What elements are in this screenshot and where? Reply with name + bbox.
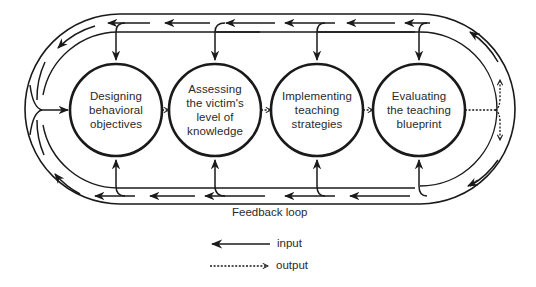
label-line: strategies xyxy=(275,117,359,131)
label-line: knowledge xyxy=(173,124,257,138)
label-line: the teaching xyxy=(377,103,461,117)
legend-output-label: output xyxy=(276,259,308,271)
label-line: blueprint xyxy=(377,117,461,131)
bottom-input-arrows xyxy=(116,160,427,196)
label-line: objectives xyxy=(74,117,158,131)
label-line: behavioral xyxy=(74,103,158,117)
node-label-assessing: Assessing the victim's level of knowledg… xyxy=(173,82,257,138)
label-line: Evaluating xyxy=(377,89,461,103)
label-line: teaching xyxy=(275,103,359,117)
left-input-merge xyxy=(30,85,68,135)
node-label-evaluating: Evaluating the teaching blueprint xyxy=(377,89,461,131)
feedback-loop-diagram xyxy=(0,0,536,287)
right-feedback-track xyxy=(468,32,498,186)
legend-input-label: input xyxy=(277,237,302,249)
label-line: the victim's xyxy=(173,96,257,110)
label-line: level of xyxy=(173,110,257,124)
label-line: Implementing xyxy=(275,89,359,103)
top-input-arrows xyxy=(116,23,427,60)
node-label-designing: Designing behavioral objectives xyxy=(74,89,158,131)
label-line: Designing xyxy=(74,89,158,103)
node-label-implementing: Implementing teaching strategies xyxy=(275,89,359,131)
feedback-loop-label: Feedback loop xyxy=(232,206,307,218)
label-line: Assessing xyxy=(173,82,257,96)
